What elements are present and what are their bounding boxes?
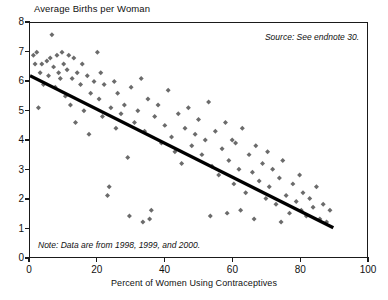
data-point [253,143,258,148]
data-point [54,53,59,58]
data-point [65,67,70,72]
y-tick-label: 7 [0,46,24,57]
y-tick-label: 1 [0,223,24,234]
data-point [189,143,194,148]
x-tick-mark [96,257,97,262]
data-point [122,102,127,107]
data-point [213,129,218,134]
data-point [125,155,130,160]
data-point [280,158,285,163]
data-point [80,61,85,66]
data-point [156,102,161,107]
data-point [56,70,61,75]
data-point [51,64,56,69]
data-point [297,173,302,178]
data-point [252,216,257,221]
data-point [49,32,54,37]
trend-line [30,76,333,228]
data-point [260,161,265,166]
data-point [231,181,236,186]
data-point [327,208,332,213]
x-tick-label: 20 [77,264,117,275]
y-tick-mark [25,80,30,81]
y-tick-label: 2 [0,193,24,204]
x-tick-mark [28,257,29,262]
data-point [95,50,100,55]
data-point [238,208,243,213]
data-point [294,199,299,204]
data-point [102,82,107,87]
x-tick-mark [232,257,233,262]
data-point [119,111,124,116]
data-point [243,190,248,195]
x-tick-mark [300,257,301,262]
data-point [34,50,39,55]
data-point [226,158,231,163]
data-point [129,85,134,90]
x-tick-label: 100 [348,264,388,275]
data-point [145,97,150,102]
scatter-plot-canvas [30,23,367,257]
data-point [115,91,120,96]
data-point [46,73,51,78]
data-points-group [31,32,333,224]
data-point [66,53,71,58]
y-tick-mark [25,51,30,52]
data-point [78,82,83,87]
chart-figure: Average Births per Woman Source: See end… [0,0,388,300]
data-point [196,117,201,122]
x-tick-label: 0 [9,264,49,275]
data-point [257,178,262,183]
data-point [267,184,272,189]
data-point [86,132,91,137]
plot-area: Source: See endnote 30. Note: Data are f… [29,22,368,258]
y-tick-label: 5 [0,105,24,116]
y-tick-label: 0 [0,252,24,263]
data-note-annotation: Note: Data are from 1998, 1999, and 2000… [38,240,200,250]
data-point [176,111,181,116]
x-axis-title: Percent of Women Using Contraceptives [0,278,388,288]
data-point [240,126,245,131]
data-point [225,211,230,216]
y-tick-mark [25,228,30,229]
data-point [307,196,312,201]
y-tick-label: 3 [0,164,24,175]
data-point [263,196,268,201]
x-tick-label: 80 [280,264,320,275]
data-point [44,59,49,64]
data-point [139,76,144,81]
data-point [230,138,235,143]
data-point [179,161,184,166]
y-tick-mark [25,169,30,170]
data-point [311,205,316,210]
data-point [132,120,137,125]
data-point [85,73,90,78]
data-point [233,140,238,145]
data-point [183,126,188,131]
data-point [39,61,44,66]
data-point [81,108,86,113]
x-tick-mark [367,257,368,262]
data-point [92,79,97,84]
x-tick-label: 60 [212,264,252,275]
data-point [60,50,65,55]
data-point [247,152,252,157]
data-point [314,184,319,189]
data-point [236,167,241,172]
data-point [250,170,255,175]
data-point [277,176,282,181]
data-point [203,138,208,143]
data-point [223,120,228,125]
data-point [208,214,213,219]
data-point [113,126,118,131]
data-point [48,56,53,61]
data-point [140,219,145,224]
data-point [265,149,270,154]
data-point [186,105,191,110]
source-annotation: Source: See endnote 30. [265,32,359,42]
data-point [100,114,105,119]
data-point [220,146,225,151]
data-point [147,216,152,221]
data-point [98,70,103,75]
data-point [216,173,221,178]
